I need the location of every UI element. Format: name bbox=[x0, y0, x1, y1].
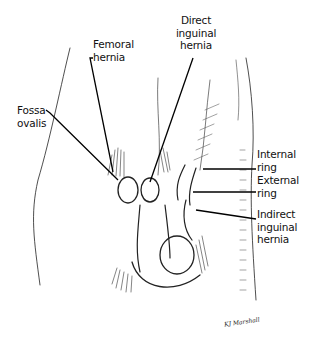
right-thigh-outline bbox=[246, 58, 256, 300]
leader-lines bbox=[46, 58, 256, 219]
label-internal-ring: Internal ring bbox=[257, 148, 296, 173]
direct-hernia-leader bbox=[150, 58, 193, 182]
label-direct-inguinal-hernia: Direct inguinal hernia bbox=[172, 14, 220, 52]
label-femoral-hernia: Femoral hernia bbox=[93, 38, 134, 63]
indirect-hernia-leader bbox=[196, 210, 256, 219]
label-external-ring: External ring bbox=[257, 174, 299, 199]
left-thigh-outline bbox=[34, 48, 70, 285]
label-fossa-ovalis: Fossa ovalis bbox=[17, 104, 46, 129]
hernia-illustration: Femoral hernia Direct inguinal hernia Fo… bbox=[0, 0, 312, 342]
label-indirect-inguinal-hernia: Indirect inguinal hernia bbox=[257, 208, 297, 246]
